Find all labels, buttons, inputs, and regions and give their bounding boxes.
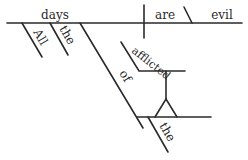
word-of: of [116, 67, 135, 86]
word-the-1: the [56, 23, 78, 47]
word-predicate-adjective: evil [211, 8, 233, 22]
word-all: All [30, 26, 51, 48]
word-verb: are [155, 8, 175, 22]
word-afflicted: afflicted [129, 44, 173, 82]
sentence-diagram: days are evil All the of afflicted the [0, 0, 248, 160]
word-the-2: the [156, 120, 178, 144]
predicate-adjective-slash [184, 7, 192, 23]
word-subject: days [41, 8, 69, 22]
pedestal-triangle [155, 99, 177, 117]
